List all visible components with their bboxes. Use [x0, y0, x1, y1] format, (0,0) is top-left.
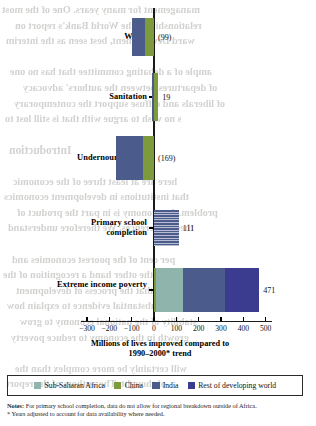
- bar-segment-4-sub-saharan-africa: [156, 268, 183, 312]
- note-line-2: * Years adjusted to account for data ava…: [7, 410, 312, 418]
- legend-label-0: Sub-Saharan Africa: [45, 381, 105, 390]
- axis-title-line-1: Millions of lives improved compared to: [40, 339, 280, 349]
- x-tick--300: [86, 317, 87, 321]
- x-tick-400: [243, 317, 244, 321]
- x-axis-title: Millions of lives improved compared to 1…: [40, 339, 280, 359]
- x-tick-300: [220, 317, 221, 321]
- chart-figure: WaterSanitationUndernourishmentPrimary s…: [0, 0, 316, 426]
- legend-swatch-icon-0: [34, 382, 42, 390]
- category-label-extreme-income-poverty: Extreme income poverty: [55, 280, 147, 290]
- bar-segment-0-india: [132, 18, 145, 56]
- bar-value-label-4: 471: [263, 286, 275, 295]
- legend-label-1: China: [125, 381, 143, 390]
- bar-segment-0-china: [145, 18, 154, 56]
- bar-segment-3-india: [154, 210, 179, 246]
- legend-label-3: Rest of developing world: [198, 381, 276, 390]
- notes-text-1: For primary school completion, data do n…: [24, 402, 257, 409]
- legend-item-rest-of-developing-world: Rest of developing world: [188, 381, 277, 390]
- x-tick-label-500: 500: [251, 324, 281, 333]
- bar-segment-2-india: [116, 136, 143, 180]
- x-tick--100: [131, 317, 132, 321]
- legend-item-china: China: [114, 381, 143, 390]
- legend-swatch-icon-1: [114, 382, 122, 390]
- x-tick-0: [153, 317, 154, 321]
- bar-value-label-3: 111: [183, 224, 194, 233]
- axis-title-line-2: 1990–2000* trend: [40, 349, 280, 359]
- bar-value-label-1: 19: [162, 93, 170, 102]
- legend-label-2: India: [163, 381, 179, 390]
- notes-lead-label: Notes:: [7, 402, 24, 409]
- x-tick-200: [198, 317, 199, 321]
- figure-notes: Notes: For primary school completion, da…: [7, 402, 312, 417]
- x-tick-500: [265, 317, 266, 321]
- chart-legend: Sub-Saharan AfricaChinaIndiaRest of deve…: [7, 375, 303, 396]
- legend-item-india: India: [152, 381, 178, 390]
- x-tick--200: [109, 317, 110, 321]
- bar-segment-1-china: [154, 73, 158, 121]
- category-label-primary-school-completion: Primary school completion: [55, 218, 147, 237]
- legend-swatch-icon-3: [188, 382, 196, 390]
- bar-value-label-0: (99): [158, 33, 171, 42]
- legend-swatch-icon-2: [152, 382, 160, 390]
- x-tick-100: [176, 317, 177, 321]
- legend-item-sub-saharan-africa: Sub-Saharan Africa: [34, 381, 105, 390]
- note-line-1: Notes: For primary school completion, da…: [7, 402, 312, 410]
- bar-segment-4-rest-of-developing-world: [225, 268, 259, 312]
- bar-segment-4-india: [183, 268, 225, 312]
- x-axis-line: [81, 321, 272, 322]
- category-label-sanitation: Sanitation: [55, 92, 147, 102]
- bar-segment-2-china: [143, 136, 154, 180]
- bar-value-label-2: (169): [158, 154, 175, 163]
